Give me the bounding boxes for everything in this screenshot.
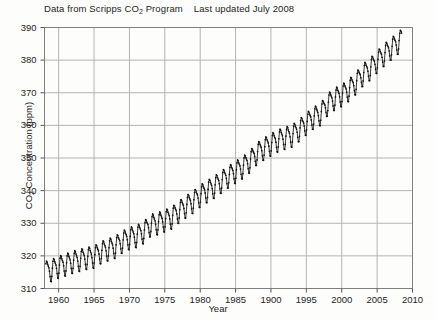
y-tick-350: 350 <box>3 152 37 163</box>
y-tick-380: 380 <box>3 54 37 65</box>
x-tick-1995: 1995 <box>286 294 326 305</box>
y-tick-310: 310 <box>3 283 37 294</box>
x-tick-1980: 1980 <box>180 294 220 305</box>
x-tick-1975: 1975 <box>145 294 185 305</box>
x-tick-2010: 2010 <box>393 294 433 305</box>
plot-area <box>0 0 436 321</box>
chart-figure: Data from Scripps CO2 ProgramLast update… <box>0 0 436 321</box>
data-series-co2 <box>45 30 402 283</box>
x-tick-2000: 2000 <box>322 294 362 305</box>
y-tick-340: 340 <box>3 185 37 196</box>
x-tick-1900: 1900 <box>251 294 291 305</box>
x-tick-2005: 2005 <box>357 294 397 305</box>
y-tick-390: 390 <box>3 22 37 33</box>
y-tick-370: 370 <box>3 87 37 98</box>
x-tick-1965: 1965 <box>74 294 114 305</box>
x-tick-1970: 1970 <box>109 294 149 305</box>
y-tick-320: 320 <box>3 250 37 261</box>
x-tick-1985: 1985 <box>216 294 256 305</box>
axis-ticks <box>41 28 413 293</box>
gridlines <box>45 28 413 289</box>
x-tick-1960: 1960 <box>39 294 79 305</box>
y-tick-360: 360 <box>3 119 37 130</box>
y-tick-330: 330 <box>3 217 37 228</box>
